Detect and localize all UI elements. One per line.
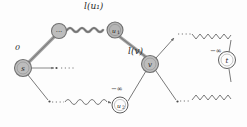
edge-s-to-dots-top <box>29 37 54 62</box>
figure-canvas: s ··· u 1 v u 2 <box>0 0 247 127</box>
node-u2[interactable]: u 2 <box>112 97 128 113</box>
node-ellipsis-label: ··· <box>56 28 63 36</box>
node-u2-subscript: 2 <box>122 105 125 110</box>
edge-label-neg-inf-u2: −∞ <box>111 86 123 93</box>
edge-label-zero: 0 <box>15 44 20 52</box>
node-s[interactable]: s <box>15 60 32 77</box>
edge-label-neg-inf-t: −∞ <box>210 48 222 55</box>
node-t-label: t <box>226 57 229 65</box>
edge-s-to-u2 <box>28 75 111 105</box>
edge-label-l-u1: l(u₁) <box>84 2 103 11</box>
node-s-label: s <box>21 65 25 73</box>
edge-s-middle-dotted <box>32 67 74 69</box>
edge-dots-top-to-u1-wavy <box>67 28 103 32</box>
graph-svg: s ··· u 1 v u 2 <box>0 0 247 127</box>
node-u1-label: u <box>112 27 116 34</box>
node-v-label: v <box>148 61 152 69</box>
node-v[interactable]: v <box>142 56 159 73</box>
node-u1[interactable]: u 1 <box>107 22 123 38</box>
edge-u2-to-v <box>128 71 146 101</box>
edge-v-to-t-lower <box>156 69 231 103</box>
node-ellipsis-top[interactable]: ··· <box>52 24 67 39</box>
edge-label-l-v: l(v) <box>128 47 143 56</box>
node-u1-subscript: 1 <box>117 30 120 35</box>
node-u2-label: u <box>117 102 121 109</box>
